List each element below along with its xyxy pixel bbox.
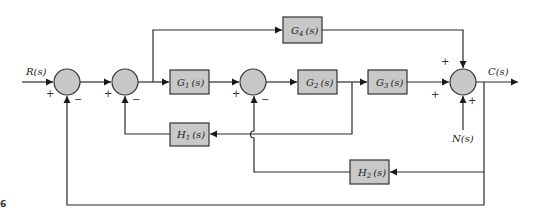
sum3-plus-sign: +: [232, 88, 240, 99]
input-label: R(s): [25, 66, 47, 77]
disturbance-label: N(s): [451, 133, 474, 144]
summing-junction-1: [54, 69, 80, 95]
sum4-top-plus-sign: +: [441, 56, 449, 67]
sum1-plus-sign: +: [46, 88, 54, 99]
sum4-left-plus-sign: +: [431, 89, 439, 100]
summing-junction-3: [240, 69, 266, 95]
summing-junction-4: [450, 69, 476, 95]
wire-unity-feedback: [67, 96, 484, 205]
sum3-minus-sign: −: [261, 94, 269, 105]
sum2-plus-sign: +: [104, 88, 112, 99]
sum2-minus-sign: −: [132, 94, 140, 105]
sum4-bottom-plus-sign: +: [468, 95, 476, 106]
figure-mark: 6: [0, 199, 6, 209]
sum1-minus-sign: −: [74, 94, 82, 105]
block-diagram: R(s) + − + − G4(s) G1(s) + − G2(s) G3(s)…: [0, 0, 534, 216]
summing-junction-2: [112, 69, 138, 95]
output-label: C(s): [488, 66, 509, 77]
